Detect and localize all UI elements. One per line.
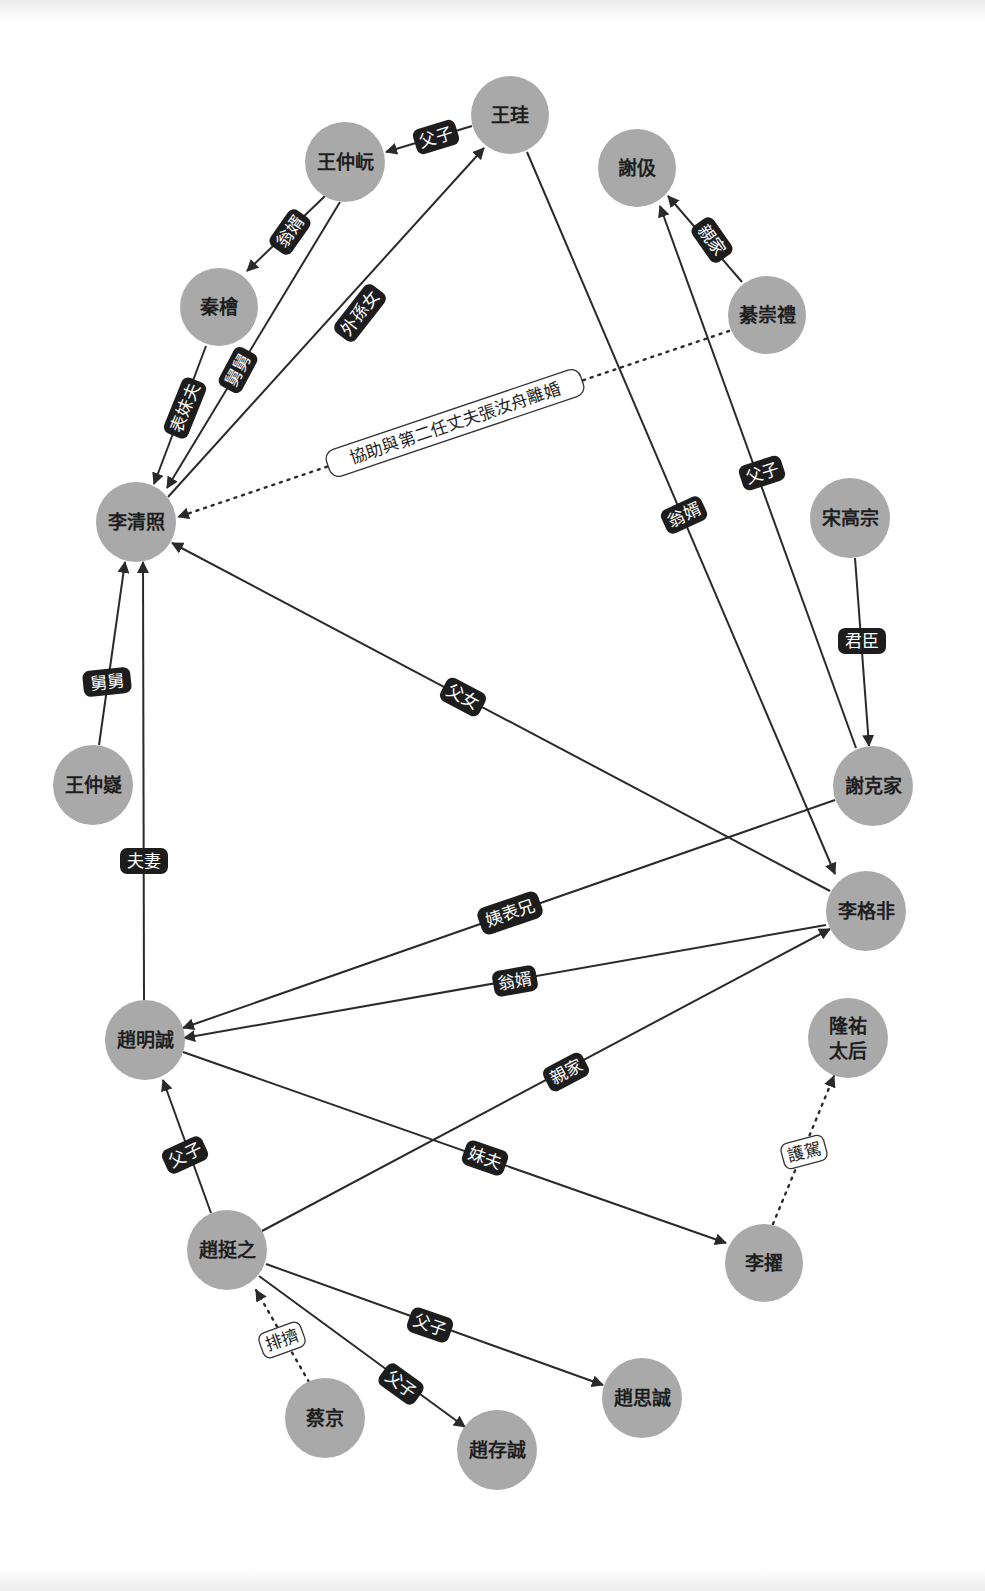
node-label: 趙明誠 [117, 1029, 174, 1051]
node-label: 謝伋 [618, 157, 656, 179]
edge-label: 君臣 [845, 631, 879, 651]
node-liqingzhao[interactable]: 李清照 [96, 482, 176, 562]
edge-wangzhongyi-qinhui[interactable]: 翁婿 [247, 196, 325, 271]
edge-zhaotingzhi-zhaosicheng[interactable]: 父子 [266, 1264, 603, 1385]
node-caijing[interactable]: 蔡京 [285, 1378, 365, 1458]
node-qinhui[interactable]: 秦檜 [180, 268, 258, 346]
edge-label: 父子 [411, 1310, 450, 1340]
node-label: 王仲嶷 [65, 774, 122, 796]
node-label: 趙思誠 [614, 1387, 671, 1409]
node-label: 蔡京 [306, 1407, 344, 1429]
edge-label: 父子 [417, 122, 455, 151]
node-label: 趙挺之 [199, 1239, 256, 1261]
node-label: 王珪 [491, 104, 529, 126]
node-qichongli[interactable]: 綦崇禮 [728, 276, 806, 354]
node-label-line2: 太后 [829, 1040, 867, 1062]
relationship-graph: 父子 翁婿 舅舅 表妹夫 [0, 0, 985, 1591]
nodes-layer: 王珪 王仲岏 謝伋 秦檜 綦崇禮 李清照 宋高宗 王仲嶷 [53, 76, 913, 1490]
node-ligefei[interactable]: 李格非 [826, 871, 906, 951]
node-songgaozong[interactable]: 宋高宗 [810, 478, 890, 558]
edge-zhaotingzhi-zhaomingcheng[interactable]: 父子 [160, 1080, 211, 1213]
edge-label: 協助與第二任丈夫張汝舟離婚 [347, 378, 563, 467]
node-label: 宋高宗 [821, 507, 879, 529]
node-label: 秦檜 [199, 296, 239, 318]
node-wanggui[interactable]: 王珪 [471, 76, 549, 154]
edge-label: 夫妻 [127, 851, 161, 871]
edge-wangzhongyi2-liqingzhao[interactable]: 舅舅 [82, 562, 132, 745]
edge-qichongli-liqingzhao[interactable]: 協助與第二任丈夫張汝舟離婚 [178, 331, 729, 517]
node-label: 綦崇禮 [738, 304, 796, 326]
edge-caijing-zhaotingzhi[interactable]: 排擠 [256, 1290, 309, 1382]
node-zhaomingcheng[interactable]: 趙明誠 [105, 1000, 185, 1080]
node-zhaotingzhi[interactable]: 趙挺之 [187, 1210, 267, 1290]
node-longyou[interactable]: 隆祐 太后 [808, 998, 888, 1078]
node-zhaosicheng[interactable]: 趙思誠 [602, 1358, 682, 1438]
node-xieji[interactable]: 謝伋 [598, 129, 676, 207]
node-lizhuo[interactable]: 李擢 [725, 1224, 803, 1302]
node-wangzhongyi2[interactable]: 王仲嶷 [53, 745, 133, 825]
node-label-line1: 隆祐 [829, 1015, 867, 1037]
edge-label: 父子 [743, 458, 782, 488]
edge-label: 舅舅 [89, 670, 125, 693]
edge-ligefei-liqingzhao[interactable]: 父女 [172, 543, 830, 891]
edge-qichongli-xieji[interactable]: 親家 [668, 196, 742, 282]
node-label: 王仲岏 [317, 151, 374, 173]
node-zhaocuncheng[interactable]: 趙存誠 [457, 1410, 537, 1490]
node-label: 李擢 [744, 1252, 783, 1274]
node-wangzhongyi[interactable]: 王仲岏 [305, 122, 385, 202]
edge-lizhuo-longyou[interactable]: 護駕 [773, 1076, 834, 1224]
edge-zhaomingcheng-lizhuo[interactable]: 妹夫 [183, 1052, 726, 1243]
edge-wangzhongyi-liqingzhao[interactable]: 舅舅 [167, 202, 340, 488]
node-label: 李清照 [107, 511, 165, 533]
node-label: 謝克家 [845, 775, 903, 797]
node-xiekejia[interactable]: 謝克家 [833, 746, 913, 826]
node-label: 趙存誠 [469, 1439, 526, 1461]
edge-label: 妹夫 [466, 1143, 505, 1173]
edge-wanggui-ligefei[interactable]: 翁婿 [527, 152, 835, 874]
edge-wanggui-wangzhongyi[interactable]: 父子 [386, 118, 472, 156]
node-label: 李格非 [837, 900, 895, 922]
